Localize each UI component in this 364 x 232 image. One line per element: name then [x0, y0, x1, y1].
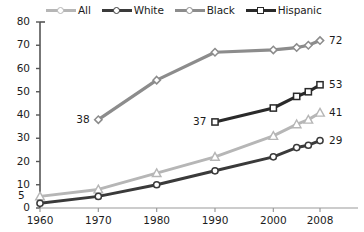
- y-tick-label: 50: [6, 85, 30, 97]
- data-label-hispanic-53: 53: [329, 78, 342, 90]
- data-point-square: [317, 82, 323, 88]
- series-white: [40, 141, 320, 204]
- data-point-circle: [270, 154, 276, 160]
- data-label-black-38: 38: [76, 113, 89, 125]
- y-tick-label: 60: [6, 62, 30, 74]
- y-tick-label: 20: [6, 155, 30, 167]
- series-black: [98, 41, 320, 120]
- x-tick-label: 1960: [17, 214, 63, 226]
- x-tick-label: 2008: [297, 214, 343, 226]
- data-label-black-72: 72: [329, 34, 342, 46]
- y-tick-label: 80: [6, 15, 30, 27]
- x-tick-label: 1970: [75, 214, 121, 226]
- data-point-square: [294, 93, 300, 99]
- x-tick-label: 1990: [192, 214, 238, 226]
- data-point-circle: [305, 142, 311, 148]
- data-point-diamond: [270, 46, 277, 53]
- plot-area: 0102030405060708019601970198019902000200…: [0, 0, 364, 232]
- y-tick-label: 70: [6, 38, 30, 50]
- y-tick-label: 10: [6, 178, 30, 190]
- series-line-black: [98, 41, 320, 120]
- data-label-all-5: 5: [18, 189, 25, 201]
- data-point-square: [305, 89, 311, 95]
- data-point-circle: [95, 193, 101, 199]
- data-point-square: [270, 105, 276, 111]
- plot-svg: [0, 0, 364, 232]
- data-point-diamond: [293, 44, 300, 51]
- x-tick-label: 1980: [134, 214, 180, 226]
- series-line-hispanic: [215, 85, 320, 122]
- y-tick-label: 40: [6, 108, 30, 120]
- data-point-triangle: [316, 108, 325, 116]
- data-point-circle: [294, 144, 300, 150]
- y-tick-label: 30: [6, 131, 30, 143]
- data-label-hispanic-37: 37: [193, 115, 206, 127]
- series-line-white: [40, 141, 320, 204]
- data-label-white-29: 29: [329, 134, 342, 146]
- data-point-circle: [317, 137, 323, 143]
- data-label-all-41: 41: [329, 106, 342, 118]
- x-tick-label: 2000: [250, 214, 296, 226]
- line-chart: AllWhiteBlackHispanic 010203040506070801…: [0, 0, 364, 232]
- data-point-square: [212, 119, 218, 125]
- series-markers-white: [37, 137, 323, 206]
- data-point-circle: [154, 182, 160, 188]
- y-tick-label: 0: [6, 201, 30, 213]
- data-point-circle: [37, 200, 43, 206]
- series-hispanic: [215, 85, 320, 122]
- data-point-circle: [212, 168, 218, 174]
